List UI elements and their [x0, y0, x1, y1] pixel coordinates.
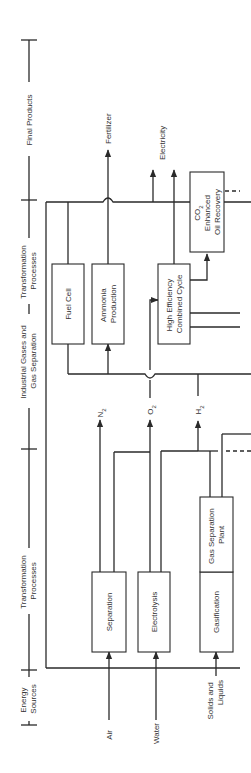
- input-label-solids-liquids: Solids and Liquids: [206, 680, 225, 720]
- svg-text:Separation: Separation: [105, 593, 114, 632]
- process-box-electrolysis: Electrolysis: [138, 572, 170, 652]
- process-box-ammonia-production: Ammonia Production: [92, 264, 124, 344]
- gas-label-h2: H2: [194, 405, 205, 415]
- stage-label-final-products: Final Products: [25, 94, 34, 145]
- svg-text:Electrolysis: Electrolysis: [150, 592, 159, 632]
- product-label-electricity: Electricity: [158, 126, 167, 160]
- process-box-co2-eor: CO2 Enhanced Oil Recovery: [190, 172, 224, 252]
- svg-text:High Efficiency Combined: High Efficiency Combined Cycle: [165, 274, 184, 333]
- svg-text:Gasification: Gasification: [212, 591, 221, 633]
- process-box-separation: Separation: [92, 572, 126, 652]
- input-label-air: Air: [105, 730, 114, 740]
- process-box-gasification: Gasification: [200, 572, 233, 652]
- process-box-gas-separation-plant: Gas Separation Plant: [200, 497, 233, 572]
- process-box-combined-cycle: High Efficiency Combined Cycle: [158, 264, 190, 344]
- gas-label-n2: N2: [96, 408, 107, 418]
- gas-label-o2: O2: [146, 405, 157, 415]
- svg-text:Ammonia Production: Ammonia Production: [99, 285, 118, 323]
- stage-label-energy-sources: Energy Sources: [19, 684, 38, 713]
- product-label-fertilizer: Fertilizer: [104, 113, 113, 144]
- svg-text:Fuel Cell: Fuel Cell: [64, 288, 73, 320]
- stage-label-industrial-gases: Industrial Gases and Gas Separation: [19, 323, 38, 399]
- stage-axis: Final Products Transformation Processes …: [14, 40, 44, 725]
- energy-flow-diagram: Final Products Transformation Processes …: [0, 0, 251, 773]
- input-label-water: Water: [152, 723, 161, 744]
- process-box-fuel-cell: Fuel Cell: [52, 264, 84, 344]
